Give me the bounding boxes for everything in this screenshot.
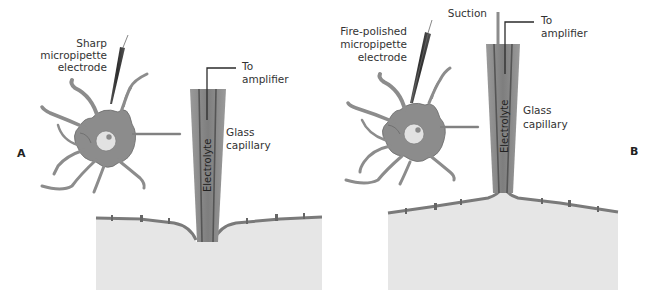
electrode-label-b: Fire-polished micropipette electrode	[340, 25, 407, 63]
svg-text:micropipette: micropipette	[340, 38, 407, 50]
nucleolus-a	[106, 134, 111, 139]
svg-text:Glass: Glass	[523, 104, 551, 116]
neuron-a	[42, 74, 180, 192]
tissue-block-b	[388, 187, 618, 290]
fire-polished-electrode-b	[410, 20, 432, 103]
panel-b: Electrolyte	[340, 7, 638, 290]
electrolyte-label-a: Electrolyte	[202, 139, 213, 192]
capillary-label-a: Glass capillary	[226, 126, 271, 151]
suction-label: Suction	[448, 7, 487, 19]
neuron-b	[346, 68, 478, 184]
svg-text:Glass: Glass	[226, 126, 254, 138]
amplifier-label-b: To amplifier	[540, 14, 588, 39]
amplifier-label-a: To amplifier	[241, 60, 289, 85]
panel-label-b: B	[630, 145, 638, 158]
svg-text:electrode: electrode	[58, 61, 107, 73]
sharp-electrode-a	[110, 35, 128, 104]
svg-text:micropipette: micropipette	[40, 49, 107, 61]
svg-text:capillary: capillary	[226, 139, 271, 151]
panel-label-a: A	[17, 147, 26, 160]
micropipette-recording-diagram: Electrolyte	[0, 0, 655, 305]
svg-text:Sharp: Sharp	[76, 37, 107, 49]
capillary-label-b: Glass capillary	[523, 104, 568, 130]
svg-text:capillary: capillary	[523, 118, 568, 130]
svg-text:To: To	[540, 14, 552, 26]
svg-text:Fire-polished: Fire-polished	[340, 25, 407, 37]
nucleolus-b	[415, 127, 420, 132]
svg-text:To: To	[241, 60, 253, 72]
panel-a: Electrolyte	[17, 35, 322, 290]
svg-text:electrode: electrode	[358, 51, 407, 63]
nucleus-b	[404, 124, 424, 144]
svg-text:amplifier: amplifier	[541, 27, 588, 39]
svg-text:amplifier: amplifier	[242, 73, 289, 85]
electrolyte-label-b: Electrolyte	[499, 100, 510, 153]
nucleus-a	[96, 131, 116, 151]
electrode-label-a: Sharp micropipette electrode	[40, 37, 107, 73]
